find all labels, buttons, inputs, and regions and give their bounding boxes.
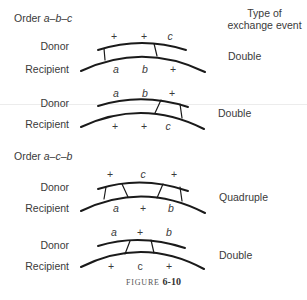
caption-number: 6-10	[163, 276, 181, 287]
figure-caption: FIGURE 6-10	[0, 276, 307, 287]
chromosome-diagrams	[0, 0, 307, 300]
d3-donor-chromosome	[98, 182, 188, 191]
d1-crossover-left	[104, 49, 105, 61]
d4-crossover-right	[151, 240, 154, 253]
caption-prefix: FIGURE	[126, 278, 160, 287]
d3-crossover-2	[122, 184, 128, 197]
diagram-1	[81, 43, 205, 72]
d3-crossover-1	[104, 187, 106, 199]
diagram-2	[81, 99, 204, 129]
diagram-3	[81, 182, 205, 213]
d3-crossover-3	[157, 184, 163, 198]
d1-recipient-chromosome	[81, 57, 205, 72]
d2-crossover-left	[155, 100, 161, 113]
d4-recipient-chromosome	[81, 252, 204, 269]
d4-donor-chromosome	[98, 240, 185, 248]
diagram-4	[81, 240, 204, 269]
d2-donor-chromosome	[98, 99, 188, 107]
d2-recipient-chromosome	[81, 113, 204, 129]
d1-crossover-right	[154, 44, 157, 57]
d1-donor-chromosome	[98, 43, 186, 50]
d3-recipient-chromosome	[81, 196, 205, 213]
